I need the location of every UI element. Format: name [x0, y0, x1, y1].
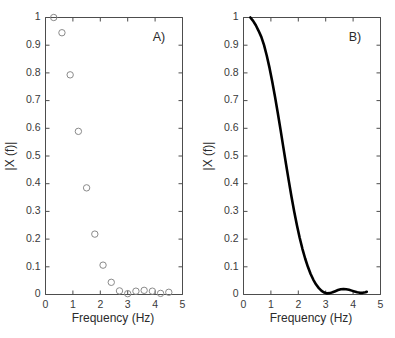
panel-b-label: B): [349, 30, 362, 44]
panel-b-plot: 00.10.20.30.40.50.60.70.80.91 012345 Fre…: [198, 0, 395, 338]
y-tick-label: 0.4: [26, 176, 41, 188]
data-point: [83, 185, 89, 191]
data-point: [92, 231, 98, 237]
y-tick-label: 0.1: [26, 260, 41, 272]
axis-frame: [46, 18, 183, 295]
panel-b-axes: [244, 18, 381, 295]
panel-b-xlabel: Frequency (Hz): [270, 311, 353, 325]
data-point: [116, 288, 122, 294]
y-tick-label: 1: [233, 10, 239, 22]
x-tick-label: 3: [323, 298, 329, 310]
y-tick-label: 0.2: [26, 232, 41, 244]
data-point: [108, 279, 114, 285]
figure-container: 00.10.20.30.40.50.60.70.80.91 012345 Fre…: [0, 0, 395, 338]
y-tick-label: 0.8: [224, 66, 239, 78]
data-point: [133, 288, 139, 294]
panel-a-axes: [46, 18, 183, 295]
x-tick-label: 2: [295, 298, 301, 310]
y-tick-label: 0.7: [26, 93, 41, 105]
y-tick-label: 0.1: [224, 260, 239, 272]
y-tick-label: 0.8: [26, 66, 41, 78]
y-tick-label: 0.3: [224, 204, 239, 216]
x-tick-label: 0: [43, 298, 49, 310]
data-point: [157, 290, 163, 296]
y-tick-label: 0.2: [224, 232, 239, 244]
panel-a-x-ticks: 012345: [43, 18, 186, 310]
x-tick-label: 5: [180, 298, 186, 310]
x-tick-label: 1: [268, 298, 274, 310]
y-tick-label: 0.6: [26, 121, 41, 133]
panel-a-y-ticks: 00.10.20.30.40.50.60.70.80.91: [26, 10, 183, 299]
y-tick-label: 0.4: [224, 176, 239, 188]
panel-b-data-curve: [250, 18, 366, 294]
panel-a-xlabel: Frequency (Hz): [72, 311, 155, 325]
axis-frame: [244, 18, 381, 295]
y-tick-label: 1: [35, 10, 41, 22]
y-tick-label: 0.5: [26, 149, 41, 161]
panel-b: 00.10.20.30.40.50.60.70.80.91 012345 Fre…: [198, 0, 395, 338]
y-tick-label: 0.7: [224, 93, 239, 105]
y-tick-label: 0: [233, 287, 239, 299]
panel-b-ylabel: |X (f)|: [201, 142, 215, 171]
y-tick-label: 0.5: [224, 149, 239, 161]
panel-a-ylabel: |X (f)|: [3, 142, 17, 171]
data-point: [141, 287, 147, 293]
data-point: [100, 262, 106, 268]
data-point: [75, 128, 81, 134]
x-tick-label: 3: [125, 298, 131, 310]
y-tick-label: 0: [35, 287, 41, 299]
panel-b-y-ticks: 00.10.20.30.40.50.60.70.80.91: [224, 10, 381, 299]
y-tick-label: 0.3: [26, 204, 41, 216]
panel-a: 00.10.20.30.40.50.60.70.80.91 012345 Fre…: [0, 0, 197, 338]
panel-a-label: A): [153, 30, 166, 44]
panel-a-plot: 00.10.20.30.40.50.60.70.80.91 012345 Fre…: [0, 0, 197, 338]
x-tick-label: 5: [378, 298, 384, 310]
x-tick-label: 4: [350, 298, 356, 310]
panel-b-x-ticks: 012345: [241, 18, 384, 310]
x-tick-label: 0: [241, 298, 247, 310]
x-tick-label: 2: [97, 298, 103, 310]
x-tick-label: 4: [152, 298, 158, 310]
data-point: [59, 30, 65, 36]
x-tick-label: 1: [70, 298, 76, 310]
panel-a-data-markers: [51, 14, 172, 297]
y-tick-label: 0.9: [26, 38, 41, 50]
y-tick-label: 0.9: [224, 38, 239, 50]
data-line: [250, 18, 366, 294]
y-tick-label: 0.6: [224, 121, 239, 133]
data-point: [67, 72, 73, 78]
